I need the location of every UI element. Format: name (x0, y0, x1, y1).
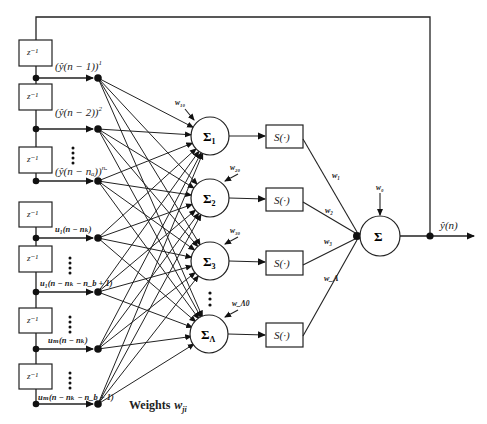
tap-label-y1: (ŷ(n − 1))1 (55, 59, 102, 73)
output-bias: w₀ (376, 183, 384, 215)
bias-w10: w₁₀ (175, 98, 186, 107)
delay-label: z⁻¹ (26, 315, 38, 325)
delay-label: z⁻¹ (26, 209, 38, 219)
weights-caption: Weightswji (129, 398, 188, 414)
tap-label-yna: (ŷ(n − nₐ))nₐ (55, 164, 107, 178)
narx-network-diagram: z⁻¹ z⁻¹ z⁻¹ z⁻¹ z⁻¹ z⁻¹ z⁻¹ (ŷ(n − 1))1 … (0, 0, 487, 424)
output-label: ŷ(n) (439, 219, 458, 232)
hidden-node-2: Σ2 (191, 179, 229, 217)
tap-label-u1-last: u₁(n − nₖ − n_b + 1) (40, 278, 113, 288)
svg-text:w₀: w₀ (376, 183, 384, 192)
w2-label: w₂ (325, 206, 333, 215)
tap-label-y2: (ŷ(n − 2))2 (55, 105, 102, 119)
tap-label-u1-nk: u₁(n − nₖ) (55, 224, 92, 234)
hidden-ellipsis (208, 291, 211, 306)
hidden-node-3: Σ3 (191, 242, 229, 280)
hidden-node-lambda: ΣΛ (190, 315, 228, 353)
feedback-loop (36, 17, 430, 236)
hidden-layer: Σ1 Σ2 Σ3 ΣΛ (190, 117, 229, 353)
svg-text:S(·): S(·) (274, 194, 290, 207)
w3-label: w₃ (324, 237, 332, 246)
output-node: Σ (360, 216, 400, 256)
delay-label: z⁻¹ (26, 371, 38, 381)
bias-w30: w₃₀ (230, 226, 241, 235)
svg-text:S(·): S(·) (274, 329, 290, 342)
tap-label-um-last: uₘ(n − nₖ − n_b + 1) (38, 392, 114, 402)
input-nodes (94, 74, 102, 408)
wL-label: w_Λ (324, 274, 339, 283)
w1-label: w₁ (332, 171, 340, 180)
tap-arrows (36, 78, 93, 404)
activation-boxes: S(·) S(·) S(·) S(·) (266, 125, 303, 347)
delay-label: z⁻¹ (26, 47, 38, 57)
delay-label: z⁻¹ (26, 91, 38, 101)
svg-text:S(·): S(·) (274, 131, 290, 144)
tap-label-um-nk: uₘ(n − nₖ) (48, 335, 88, 345)
output-arrow: ŷ(n) (400, 219, 474, 240)
ellipsis-dots-left (69, 147, 75, 390)
svg-text:S(·): S(·) (274, 257, 290, 270)
hidden-node-1: Σ1 (191, 117, 229, 155)
delay-label: z⁻¹ (26, 253, 38, 263)
svg-text:Σ: Σ (374, 229, 383, 244)
bias-w20: w₂₀ (230, 163, 241, 172)
output-weight-labels: w₁ w₂ w₃ w_Λ (324, 171, 340, 283)
bias-wL0: w_Λ0 (232, 299, 250, 308)
input-hidden-weights (98, 78, 203, 404)
delay-label: z⁻¹ (26, 154, 38, 164)
